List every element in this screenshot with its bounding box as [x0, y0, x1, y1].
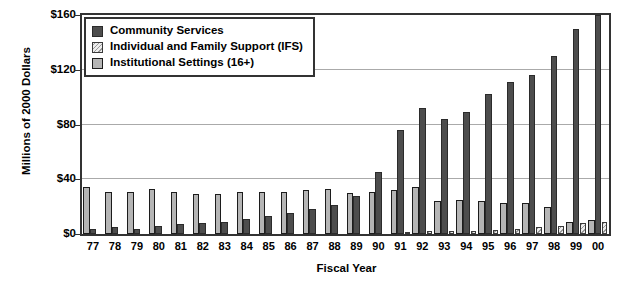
legend-label: Individual and Family Support (IFS)	[110, 41, 303, 53]
bar-community-services	[397, 130, 404, 234]
bar-community-services	[265, 216, 272, 234]
bar-chart: Millions of 2000 Dollars $0$40$80$120$16…	[0, 0, 623, 282]
bar-group	[391, 15, 411, 234]
bar-community-services	[309, 209, 316, 234]
bar-group	[544, 15, 564, 234]
x-tick-label: 85	[257, 240, 281, 252]
bar-community-services	[419, 108, 426, 234]
bar-community-services	[199, 223, 206, 234]
bar-community-services	[573, 29, 580, 234]
x-tick-label: 97	[520, 240, 544, 252]
bar-group	[522, 15, 542, 234]
x-tick-label: 81	[169, 240, 193, 252]
x-tick-label: 78	[103, 240, 127, 252]
bar-community-services	[353, 196, 360, 234]
bar-individual-family-support	[471, 231, 476, 234]
bar-group	[434, 15, 454, 234]
legend-item: Institutional Settings (16+)	[92, 55, 303, 71]
bar-community-services	[485, 94, 492, 234]
bar-individual-family-support	[515, 229, 520, 234]
bar-community-services	[155, 226, 162, 234]
x-tick-label: 87	[301, 240, 325, 252]
x-tick-label: 83	[213, 240, 237, 252]
x-tick-label: 90	[366, 240, 390, 252]
legend-item: Community Services	[92, 23, 303, 39]
x-tick-label: 00	[586, 240, 610, 252]
bar-individual-family-support	[536, 227, 541, 234]
legend-swatch-community-icon	[92, 26, 103, 37]
x-tick-label: 98	[542, 240, 566, 252]
bar-community-services	[243, 219, 250, 234]
bar-group	[347, 15, 367, 234]
x-tick-label: 88	[323, 240, 347, 252]
bar-community-services	[551, 56, 558, 234]
bar-group	[500, 15, 520, 234]
bar-community-services	[90, 229, 97, 234]
bar-community-services	[331, 205, 338, 234]
x-tick-label: 82	[191, 240, 215, 252]
x-tick-label: 99	[564, 240, 588, 252]
bar-community-services	[221, 222, 228, 234]
x-tick-label: 96	[498, 240, 522, 252]
bar-community-services	[375, 172, 382, 234]
legend-swatch-institutional-icon	[92, 58, 103, 69]
y-tick-label: $40	[0, 172, 76, 184]
y-tick-label: $0	[0, 227, 76, 239]
bar-group	[566, 15, 586, 234]
legend-swatch-ifs-icon	[92, 42, 103, 53]
bar-community-services	[595, 15, 602, 234]
bar-community-services	[177, 224, 184, 234]
x-axis-title: Fiscal Year	[80, 262, 613, 274]
legend-item: Individual and Family Support (IFS)	[92, 39, 303, 55]
x-tick-label: 79	[125, 240, 149, 252]
bar-group	[369, 15, 389, 234]
bar-community-services	[529, 75, 536, 234]
x-tick-label: 77	[81, 240, 105, 252]
bar-individual-family-support	[558, 226, 563, 234]
x-tick-label: 93	[432, 240, 456, 252]
x-tick-label: 91	[388, 240, 412, 252]
chart-legend: Community ServicesIndividual and Family …	[84, 17, 315, 77]
x-tick-label: 92	[410, 240, 434, 252]
bar-individual-family-support	[405, 232, 410, 234]
bar-individual-family-support	[427, 231, 432, 234]
x-tick-label: 86	[279, 240, 303, 252]
bar-institutional-settings	[83, 187, 90, 234]
bar-community-services	[441, 119, 448, 234]
bar-group	[412, 15, 432, 234]
bar-community-services	[134, 229, 141, 234]
legend-label: Institutional Settings (16+)	[110, 57, 254, 69]
bar-individual-family-support	[580, 223, 585, 234]
bar-group	[478, 15, 498, 234]
y-tick-label: $120	[0, 63, 76, 75]
y-tick-label: $80	[0, 118, 76, 130]
x-tick-label: 80	[147, 240, 171, 252]
y-tick-label: $160	[0, 8, 76, 20]
bar-group	[325, 15, 345, 234]
x-tick-label: 95	[476, 240, 500, 252]
x-tick-label: 84	[235, 240, 259, 252]
bar-community-services	[112, 227, 119, 234]
bar-community-services	[287, 213, 294, 234]
bar-group	[456, 15, 476, 234]
bar-individual-family-support	[493, 230, 498, 234]
bar-group	[588, 15, 608, 234]
legend-label: Community Services	[110, 25, 224, 37]
x-tick-label: 94	[454, 240, 478, 252]
bar-community-services	[507, 82, 514, 234]
bar-community-services	[463, 112, 470, 234]
bar-individual-family-support	[602, 222, 607, 234]
x-tick-label: 89	[344, 240, 368, 252]
bar-individual-family-support	[449, 231, 454, 234]
